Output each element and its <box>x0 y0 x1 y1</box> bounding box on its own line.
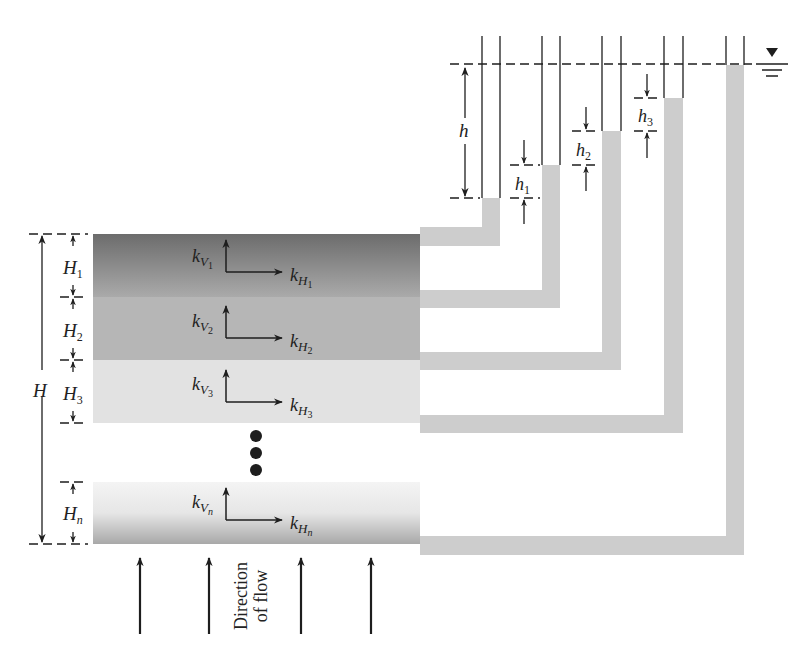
total-head-label: h <box>459 120 469 141</box>
layer-2-thickness-label: H2 <box>62 320 83 344</box>
piezometer-pipes <box>420 65 744 555</box>
layer-1-thickness-label: H1 <box>62 257 83 281</box>
flow-direction-label: Direction of flow <box>231 562 271 630</box>
layer-n-thickness-label: Hn <box>62 503 83 527</box>
soil-layer-2 <box>93 297 420 360</box>
soil-layer-1 <box>93 234 420 297</box>
continuation-dots <box>250 430 262 476</box>
pipe-1 <box>420 198 500 246</box>
svg-text:of flow: of flow <box>251 570 271 623</box>
stratified-soil-flow-diagram: h h1 h2 h3 <box>0 0 812 664</box>
pipe-3 <box>420 131 621 370</box>
head-loss-h1-label: h1 <box>515 174 530 197</box>
svg-text:Direction: Direction <box>231 562 251 630</box>
total-thickness-label: H <box>32 380 48 401</box>
head-loss-h3-label: h3 <box>638 106 653 129</box>
head-loss-h2-label: h2 <box>576 140 591 163</box>
water-level-symbol-icon <box>756 48 788 76</box>
soil-layer-3 <box>93 360 420 423</box>
pipe-5 <box>420 65 744 555</box>
layer-3-thickness-label: H3 <box>62 383 83 407</box>
soil-layer-n <box>93 482 420 544</box>
soil-layers <box>93 234 420 544</box>
